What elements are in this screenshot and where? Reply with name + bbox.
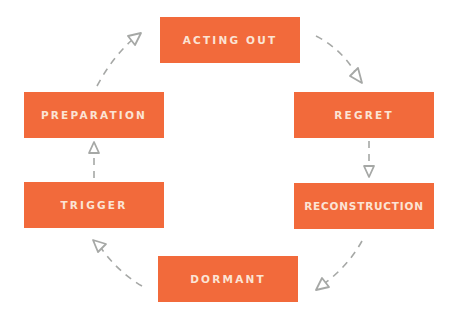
node-label: ACTING OUT (183, 34, 278, 46)
node-preparation: PREPARATION (24, 92, 164, 138)
node-reconstruction: RECONSTRUCTION (294, 183, 434, 229)
arrowhead-icon (350, 68, 362, 83)
node-regret: REGRET (294, 92, 434, 138)
node-trigger: TRIGGER (24, 182, 164, 228)
node-acting-out: ACTING OUT (160, 17, 300, 63)
arrowhead-icon (316, 278, 329, 290)
arrowhead-icon (128, 33, 141, 45)
node-label: PREPARATION (41, 109, 147, 121)
arrowhead-icon (364, 166, 374, 177)
node-dormant: DORMANT (158, 256, 298, 302)
node-label: TRIGGER (60, 199, 127, 211)
node-label: REGRET (334, 109, 394, 121)
arrow-dormant-to-trigger (101, 248, 142, 286)
node-label: DORMANT (190, 273, 266, 285)
arrowhead-icon (93, 240, 106, 252)
arrow-preparation-to-acting-out (97, 40, 132, 86)
node-label: RECONSTRUCTION (304, 200, 424, 212)
arrow-reconstruction-to-dormant (325, 241, 362, 283)
cycle-diagram: ACTING OUT REGRET RECONSTRUCTION DORMANT… (0, 0, 457, 325)
arrow-acting-out-to-regret (316, 36, 355, 72)
arrowhead-icon (89, 142, 99, 153)
